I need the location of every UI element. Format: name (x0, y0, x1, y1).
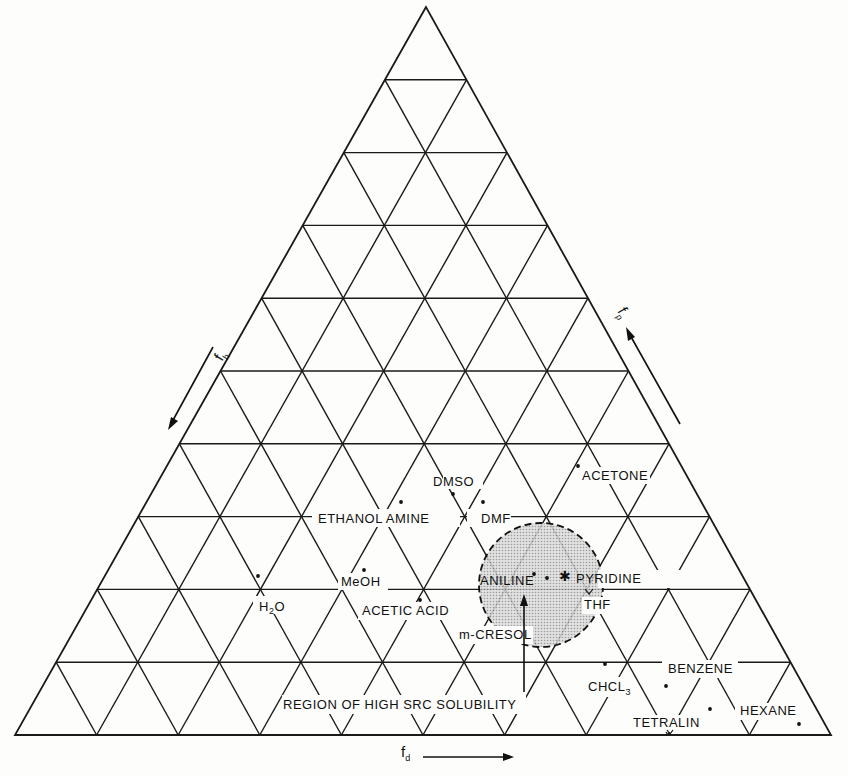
point-acetic-acid (418, 598, 422, 602)
point-chcl3 (603, 662, 607, 666)
svg-text:fp: fp (612, 304, 634, 322)
label-region-high-src-solubility: REGION OF HIGH SRC SOLUBILITY (283, 697, 516, 712)
ternary-solubility-diagram: ✱ H2O MeOH ETHANOL AMINE DMSO DMF ACETON… (0, 0, 848, 776)
svg-text:fh: fh (210, 347, 232, 365)
label-acetone: ACETONE (582, 468, 648, 483)
arrow-up-left-icon (626, 327, 635, 341)
arrow-down-left-icon (168, 417, 178, 430)
label-dmso: DMSO (433, 474, 474, 489)
label-thf: THF (584, 597, 611, 612)
pyridine-star-icon: ✱ (559, 568, 571, 584)
label-tetralin: TETRALIN (633, 715, 700, 730)
point-dmso (451, 492, 455, 496)
label-hexane: HEXANE (740, 703, 796, 718)
point-meoh (362, 568, 366, 572)
point-hexane (797, 722, 801, 726)
point-dmf (481, 500, 485, 504)
point-ethanol-amine (399, 500, 403, 504)
label-pyridine: PYRIDINE (576, 571, 641, 586)
point-h2o (256, 574, 260, 578)
label-m-cresol: m-CRESOL (459, 627, 532, 642)
triangle-grid (15, 7, 831, 735)
label-acetic-acid: ACETIC ACID (362, 603, 449, 618)
axis-p: fp (612, 304, 680, 424)
point-benzene (664, 684, 668, 688)
label-meoh: MeOH (341, 574, 381, 589)
point-acetone (576, 464, 580, 468)
arrow-right-icon (503, 753, 514, 761)
svg-text:fd: fd (401, 743, 410, 763)
point-aniline (545, 576, 549, 580)
axis-h: fh (168, 347, 232, 430)
axis-d: fd (401, 743, 514, 763)
label-aniline: ANILINE (480, 573, 534, 588)
label-ethanol-amine: ETHANOL AMINE (318, 511, 429, 526)
label-dmf: DMF (481, 511, 511, 526)
label-benzene: BENZENE (668, 661, 733, 676)
point-tetralin (708, 707, 712, 711)
